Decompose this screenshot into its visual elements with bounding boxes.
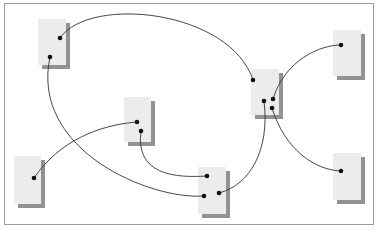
node-d[interactable]: [198, 167, 230, 218]
edge-node-c-to-node-b[interactable]: [34, 122, 137, 178]
node-a-port-2[interactable]: [48, 55, 53, 60]
edge-node-e-to-node-f[interactable]: [273, 45, 341, 99]
diagram-canvas: [0, 0, 381, 233]
node-box[interactable]: [333, 153, 361, 200]
node-e-port-1[interactable]: [251, 78, 256, 83]
node-a-port-1[interactable]: [58, 36, 63, 41]
node-d-port-3[interactable]: [217, 191, 222, 196]
node-b-port-2[interactable]: [139, 129, 144, 134]
node-f[interactable]: [333, 30, 365, 80]
node-f-port-1[interactable]: [339, 43, 344, 48]
node-d-port-1[interactable]: [205, 174, 210, 179]
node-a[interactable]: [38, 19, 70, 69]
node-box[interactable]: [333, 30, 361, 76]
node-box[interactable]: [198, 167, 226, 214]
node-box[interactable]: [124, 97, 151, 142]
node-g[interactable]: [333, 153, 365, 204]
node-e[interactable]: [251, 69, 283, 119]
node-g-port-1[interactable]: [339, 169, 344, 174]
node-d-port-2[interactable]: [202, 194, 207, 199]
node-c-port-1[interactable]: [32, 176, 37, 181]
edge-node-a-to-node-e[interactable]: [60, 14, 253, 80]
node-e-port-4[interactable]: [270, 106, 275, 111]
node-e-port-3[interactable]: [271, 97, 276, 102]
node-b[interactable]: [124, 97, 155, 146]
node-c[interactable]: [14, 156, 45, 208]
node-box[interactable]: [14, 156, 41, 204]
node-e-port-2[interactable]: [262, 99, 267, 104]
node-b-port-1[interactable]: [135, 120, 140, 125]
